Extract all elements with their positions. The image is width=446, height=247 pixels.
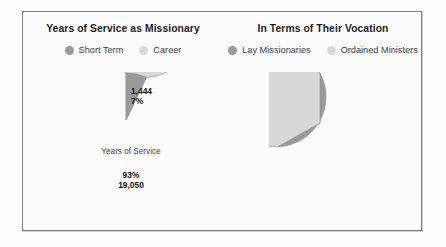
chart-panel-years-of-service: Years of Service as Missionary Short Ter… — [23, 12, 223, 230]
legend-swatch-career-icon — [139, 46, 148, 55]
career-value: 19,050 — [86, 180, 176, 190]
pie-svg-left — [78, 72, 174, 168]
page-title-right: In Terms of Their Vocation — [223, 23, 423, 34]
pie-svg-right — [269, 72, 371, 174]
legend-label-short-term: Short Term — [79, 45, 124, 55]
pie-chart-vocation — [269, 72, 371, 174]
legend-swatch-short-term-icon — [65, 46, 74, 55]
legend-item-lay-missionaries[interactable]: Lay Missionaries — [228, 45, 310, 55]
legend-item-short-term[interactable]: Short Term — [65, 45, 124, 55]
career-percent: 93% — [86, 170, 176, 180]
chart-frame: Years of Service as Missionary Short Ter… — [22, 11, 422, 231]
figure-canvas: Years of Service as Missionary Short Ter… — [0, 0, 446, 247]
pie-slice-ordained-ministers[interactable] — [269, 72, 320, 147]
legend-item-ordained-ministers[interactable]: Ordained Ministers — [327, 45, 418, 55]
slice-label-career: 93% 19,050 — [86, 170, 176, 191]
legend-right: Lay Missionaries Ordained Ministers — [223, 45, 423, 55]
legend-swatch-lay-missionaries-icon — [228, 46, 237, 55]
legend-swatch-ordained-ministers-icon — [327, 46, 336, 55]
legend-label-lay-missionaries: Lay Missionaries — [242, 45, 310, 55]
legend-label-ordained-ministers: Ordained Ministers — [341, 45, 418, 55]
legend-label-career: Career — [153, 45, 181, 55]
chart-panel-vocation: In Terms of Their Vocation Lay Missionar… — [223, 12, 423, 230]
legend-item-career[interactable]: Career — [139, 45, 181, 55]
pie-chart-years-of-service — [78, 72, 174, 168]
pie-slice-short-term[interactable] — [126, 73, 146, 120]
legend-left: Short Term Career — [23, 45, 223, 55]
page-title-left: Years of Service as Missionary — [23, 23, 223, 34]
